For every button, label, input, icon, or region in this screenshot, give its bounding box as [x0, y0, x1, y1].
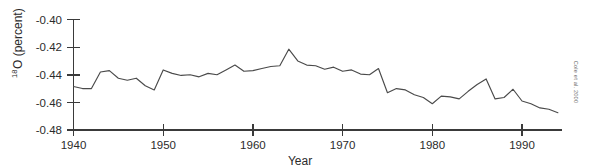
y-tick-label: -0.40 [36, 14, 62, 26]
line-chart: -0.40 -0.42 -0.44 -0.46 -0.48 1940 1950 … [0, 0, 589, 168]
x-tick-label: 1970 [330, 139, 356, 151]
data-series-line [74, 49, 558, 113]
credit-text: Cole et al. 2000 [573, 61, 579, 103]
credit-annotation: Cole et al. 2000 [573, 61, 579, 103]
x-axis-title: Year [288, 154, 312, 168]
y-axis-title: 18 O (percent) [10, 8, 25, 78]
y-tick-label: -0.44 [36, 69, 63, 81]
x-tick-label: 1980 [420, 139, 446, 151]
y-axis-title-text: O (percent) [11, 8, 25, 69]
x-tick-label: 1960 [240, 139, 266, 151]
y-tick-label: -0.42 [36, 41, 62, 53]
chart-figure: -0.40 -0.42 -0.44 -0.46 -0.48 1940 1950 … [0, 0, 589, 168]
y-tick-label: -0.46 [36, 97, 62, 109]
y-axis-title-superscript: 18 [10, 70, 19, 78]
x-tick-label: 1940 [61, 139, 87, 151]
x-tick-label: 1990 [509, 139, 535, 151]
y-tick-label: -0.48 [36, 124, 62, 136]
x-tick-label: 1950 [150, 139, 176, 151]
